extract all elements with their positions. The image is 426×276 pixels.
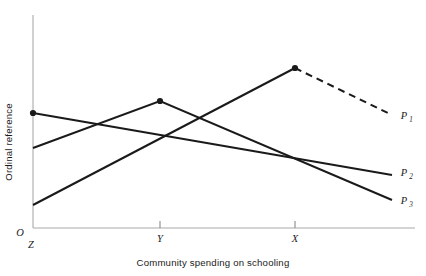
x-axis-title: Community spending on schooling [137, 257, 290, 268]
x-tick-label-z: Z [28, 239, 34, 250]
series-label-p1-sub: 1 [409, 116, 413, 124]
data-point-marker-p2-y [157, 98, 163, 104]
series-label-p3-sub: 3 [408, 201, 413, 209]
data-point-marker-p3-x [292, 65, 298, 71]
chart-figure: Y X O Z P 1 P 2 P 3 Community spending o… [0, 0, 426, 276]
series-label-p3-base: P [400, 195, 408, 206]
x-tick-label-x: X [291, 233, 299, 244]
series-label-p2-sub: 2 [409, 173, 413, 181]
series-label-p1-base: P [400, 110, 408, 121]
series-label-p2-base: P [400, 167, 408, 178]
y-axis-title: Ordinal reference [3, 103, 14, 181]
ordinal-reference-line-chart: Y X O Z P 1 P 2 P 3 Community spending o… [0, 0, 426, 276]
origin-label-o: O [16, 227, 24, 238]
chart-background [0, 0, 426, 276]
data-point-marker-p1-z [30, 110, 36, 116]
